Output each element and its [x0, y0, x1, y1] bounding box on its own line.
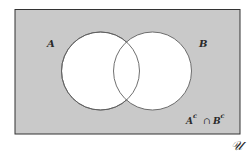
set-b-label: B — [198, 38, 207, 49]
label-intersect-op: ∩ — [203, 116, 211, 126]
label-sup-a: c — [193, 112, 197, 120]
label-base-a: A — [185, 116, 193, 126]
label-sup-b: c — [221, 112, 225, 120]
set-a-label: A — [46, 38, 55, 49]
universe-label: 𝒰 — [231, 138, 247, 153]
set-b-circle — [114, 32, 192, 110]
venn-diagram: A B A c ∩ B c 𝒰 — [0, 0, 249, 153]
